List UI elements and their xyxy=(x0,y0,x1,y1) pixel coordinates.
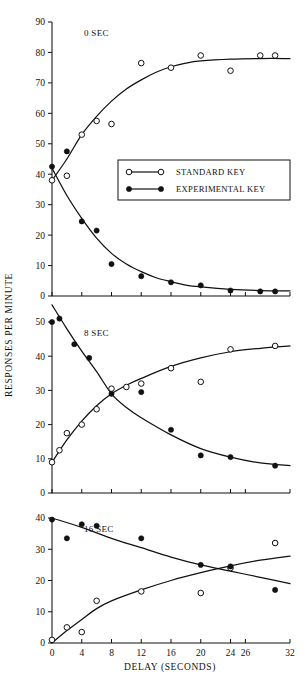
y-tick-label: 30 xyxy=(36,545,46,555)
data-point xyxy=(109,391,114,396)
data-point xyxy=(228,347,234,353)
data-point xyxy=(273,463,278,468)
data-point xyxy=(79,522,84,527)
data-point xyxy=(258,289,263,294)
y-tick-label: 0 xyxy=(40,488,45,498)
data-point xyxy=(138,60,144,66)
data-point xyxy=(79,629,85,635)
y-tick-label: 20 xyxy=(36,231,46,241)
data-point xyxy=(49,517,54,522)
data-point xyxy=(109,261,114,266)
data-point xyxy=(198,562,203,567)
y-tick-label: 20 xyxy=(36,420,46,430)
x-tick-label: 20 xyxy=(196,648,206,658)
figure-container: RESPONSES PER MINUTE DELAY (SECONDS) 010… xyxy=(0,0,307,689)
x-tick-label: 16 xyxy=(166,648,176,658)
data-point xyxy=(64,430,70,436)
y-tick-label: 10 xyxy=(36,607,46,617)
legend-marker xyxy=(158,186,163,191)
data-point xyxy=(168,280,173,285)
data-point xyxy=(272,343,278,349)
panel-0-sec: 01020304050607080900 SEC xyxy=(36,17,291,301)
x-axis-title: DELAY (SECONDS) xyxy=(124,662,216,673)
panel-8-sec: 010203040508 SEC xyxy=(36,305,291,499)
data-point xyxy=(94,598,100,604)
panel-label: 8 SEC xyxy=(84,328,109,338)
y-tick-label: 40 xyxy=(36,170,46,180)
fit-curve xyxy=(52,556,290,643)
chart-legend: STANDARD KEYEXPERIMENTAL KEY xyxy=(118,160,290,200)
data-point xyxy=(273,289,278,294)
y-tick-label: 30 xyxy=(36,386,46,396)
data-point xyxy=(57,447,63,453)
data-point xyxy=(273,587,278,592)
data-point xyxy=(228,68,234,74)
three-panel-chart: RESPONSES PER MINUTE DELAY (SECONDS) 010… xyxy=(0,0,307,689)
data-point xyxy=(198,283,203,288)
fit-curve xyxy=(52,346,290,462)
data-point xyxy=(109,121,115,127)
data-point xyxy=(49,164,54,169)
data-point xyxy=(139,390,144,395)
data-point xyxy=(228,564,233,569)
axis-frame xyxy=(52,22,290,296)
data-point xyxy=(228,454,233,459)
data-point xyxy=(49,178,55,184)
data-point xyxy=(257,53,263,59)
legend-marker xyxy=(126,186,131,191)
data-point xyxy=(72,342,77,347)
data-point xyxy=(168,65,174,71)
panel-label: 0 SEC xyxy=(84,28,109,38)
data-point xyxy=(198,53,204,59)
y-tick-label: 60 xyxy=(36,109,46,119)
y-tick-label: 90 xyxy=(36,17,46,27)
data-point xyxy=(124,384,130,390)
data-point xyxy=(198,379,204,385)
y-tick-label: 0 xyxy=(40,291,45,301)
y-tick-label: 10 xyxy=(36,261,46,271)
data-point xyxy=(87,355,92,360)
y-tick-label: 40 xyxy=(36,352,46,362)
legend-marker xyxy=(158,169,164,175)
x-tick-label: 4 xyxy=(79,648,84,658)
data-point xyxy=(198,453,203,458)
data-point xyxy=(57,316,62,321)
legend-label: STANDARD KEY xyxy=(176,167,246,177)
data-point xyxy=(94,118,100,124)
data-point xyxy=(109,386,115,392)
x-tick-label: 26 xyxy=(241,648,251,658)
data-point xyxy=(79,132,85,138)
x-tick-label: 24 xyxy=(226,648,236,658)
data-point xyxy=(49,637,55,643)
data-point xyxy=(138,381,144,387)
x-tick-label: 0 xyxy=(50,648,55,658)
y-tick-label: 50 xyxy=(36,317,46,327)
data-point xyxy=(272,540,278,546)
data-point xyxy=(94,406,100,412)
panels-group: 01020304050607080900 SEC010203040508 SEC… xyxy=(36,17,296,658)
data-point xyxy=(79,219,84,224)
panel-16-sec: 01020304004812162024263216 SEC xyxy=(36,513,296,658)
data-point xyxy=(138,589,144,595)
data-point xyxy=(64,173,70,179)
data-point xyxy=(139,274,144,279)
legend-marker xyxy=(126,169,132,175)
data-point xyxy=(64,625,70,631)
y-tick-label: 80 xyxy=(36,48,46,58)
data-point xyxy=(139,536,144,541)
y-tick-label: 0 xyxy=(40,638,45,648)
y-tick-label: 50 xyxy=(36,139,46,149)
x-tick-label: 32 xyxy=(285,648,295,658)
x-tick-label: 12 xyxy=(137,648,147,658)
y-tick-label: 20 xyxy=(36,576,46,586)
data-point xyxy=(272,53,278,59)
legend-label: EXPERIMENTAL KEY xyxy=(176,184,265,194)
data-point xyxy=(79,422,85,428)
data-point xyxy=(168,365,174,371)
data-point xyxy=(64,149,69,154)
data-point xyxy=(64,536,69,541)
y-tick-label: 30 xyxy=(36,200,46,210)
y-tick-label: 70 xyxy=(36,78,46,88)
y-tick-label: 10 xyxy=(36,454,46,464)
data-point xyxy=(198,590,204,596)
